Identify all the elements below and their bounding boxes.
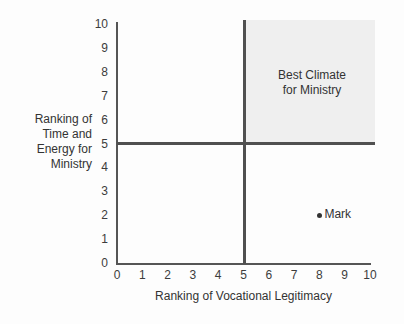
y-axis-label-line: Ministry <box>8 157 92 172</box>
y-tick-label: 10 <box>88 17 108 31</box>
y-axis-label-line: Time and <box>8 127 92 142</box>
best-climate-label-line: for Ministry <box>262 83 362 98</box>
x-axis-label: Ranking of Vocational Legitimacy <box>117 289 370 303</box>
y-tick-label: 2 <box>88 208 108 222</box>
data-point-label: Mark <box>324 207 351 221</box>
x-tick-label: 10 <box>358 268 382 282</box>
x-tick-label: 4 <box>206 268 230 282</box>
y-tick-label: 8 <box>88 65 108 79</box>
x-tick-label: 5 <box>232 268 256 282</box>
x-tick-label: 7 <box>282 268 306 282</box>
x-tick-label: 0 <box>105 268 129 282</box>
y-tick-label: 3 <box>88 184 108 198</box>
y-axis-label-line: Ranking of <box>8 112 92 127</box>
best-climate-label: Best Climate for Ministry <box>262 68 362 98</box>
y-tick-label: 1 <box>88 232 108 246</box>
y-axis-label: Ranking of Time and Energy for Ministry <box>8 112 92 172</box>
x-tick-label: 9 <box>333 268 357 282</box>
x-tick-label: 6 <box>257 268 281 282</box>
horizontal-divider-line <box>117 142 375 145</box>
data-point-dot <box>317 213 322 218</box>
y-tick-label: 7 <box>88 89 108 103</box>
x-tick-label: 8 <box>307 268 331 282</box>
best-climate-label-line: Best Climate <box>262 68 362 83</box>
x-tick-label: 1 <box>130 268 154 282</box>
quadrant-chart: 012345678910 012345678910 Ranking of Tim… <box>0 0 404 324</box>
x-tick-label: 3 <box>181 268 205 282</box>
x-tick-label: 2 <box>156 268 180 282</box>
y-axis-label-line: Energy for <box>8 142 92 157</box>
y-tick-label: 9 <box>88 41 108 55</box>
